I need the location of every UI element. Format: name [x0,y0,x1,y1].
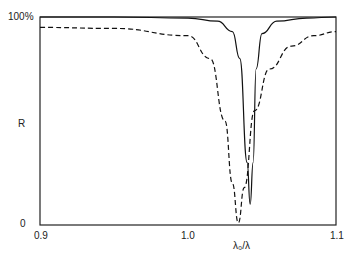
y-axis-label: R [18,118,25,129]
dashed-curve [40,27,336,223]
x-tick-0.9: 0.9 [34,230,48,241]
plot-area [0,0,349,255]
y-tick-0: 0 [20,218,26,229]
plot-frame [40,17,336,225]
x-tick-1.1: 1.1 [330,230,344,241]
y-tick-100: 100% [8,11,34,22]
x-axis-label: λ₀/λ [233,240,250,251]
x-tick-1.0: 1.0 [181,230,195,241]
solid-curve [40,17,336,204]
